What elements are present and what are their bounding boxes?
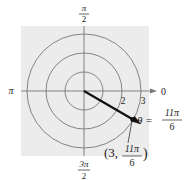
label-pi: π xyxy=(8,85,14,96)
svg-text:6: 6 xyxy=(130,157,135,168)
point-marker xyxy=(130,117,135,122)
svg-text:11π: 11π xyxy=(165,107,180,118)
svg-text:2: 2 xyxy=(82,171,87,180)
svg-text:3π: 3π xyxy=(78,159,89,169)
svg-text:π: π xyxy=(82,3,87,13)
arrow-right-icon xyxy=(150,89,157,94)
radius-label-2: 2 xyxy=(121,96,126,106)
svg-text:): ) xyxy=(143,146,148,162)
svg-text:6: 6 xyxy=(170,121,175,132)
label-pi-over-2: π 2 xyxy=(79,3,89,24)
polar-diagram: π 2 π 0 2 3 θ = 11π 6 (3, 11π 6 ) 3π 2 xyxy=(0,0,187,180)
svg-text:θ =: θ = xyxy=(137,114,153,126)
svg-text:2: 2 xyxy=(82,14,87,24)
radius-label-3: 3 xyxy=(141,96,146,106)
svg-text:11π: 11π xyxy=(125,143,140,154)
label-3pi-over-2: 3π 2 xyxy=(78,159,90,180)
svg-text:(3,: (3, xyxy=(104,145,118,160)
label-zero: 0 xyxy=(161,86,166,97)
